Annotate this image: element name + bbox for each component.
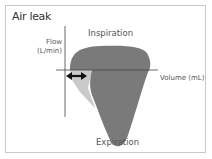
- expiration-label: Expiration: [96, 137, 139, 147]
- loop-shape: [70, 46, 150, 147]
- x-axis-label: Volume (mL): [160, 74, 204, 82]
